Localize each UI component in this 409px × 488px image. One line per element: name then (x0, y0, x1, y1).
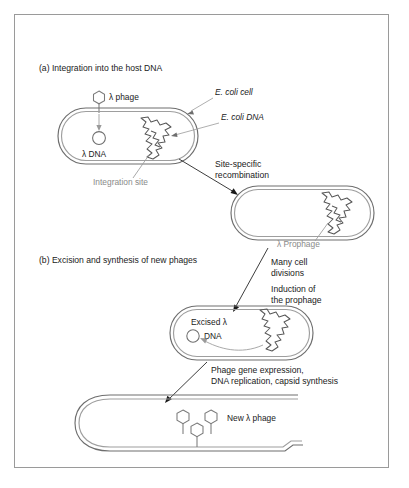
synthesis-arrow (165, 362, 207, 403)
new-phage-label: New λ phage (227, 413, 276, 423)
new-phage-3 (191, 423, 203, 447)
prophage-label: λ Prophage (277, 239, 320, 249)
host-chromosome-3 (260, 309, 290, 351)
recombination-label-line2: recombination (215, 170, 269, 180)
new-phage-1 (177, 410, 189, 434)
excised-dna-circle (187, 330, 199, 342)
integration-site-label: Integration site (93, 177, 148, 187)
divisions-label-line1: Many cell (271, 257, 307, 267)
ecoli-cell-label: E. coli cell (215, 87, 254, 97)
integration-site-leader (133, 155, 149, 178)
host-chromosome-1 (141, 117, 171, 159)
prophage-leader (315, 223, 328, 241)
panel-a-title: (a) Integration into the host DNA (39, 63, 163, 73)
ecoli-cell-leader (187, 98, 213, 115)
ecoli-cell-2 (231, 186, 374, 240)
synthesis-label-line1: Phage gene expression, (211, 365, 304, 375)
synthesis-label-line2: DNA replication, capsid synthesis (211, 376, 338, 386)
induction-arrow (233, 248, 268, 312)
excised-label-line1: Excised λ (191, 317, 228, 327)
lambda-dna-label: λ DNA (82, 149, 107, 159)
figure-frame: (a) Integration into the host DNA λ phag… (14, 14, 389, 468)
ecoli-dna-label: E. coli DNA (221, 112, 264, 122)
lysed-cell (75, 395, 303, 451)
induction-label-line2: the prophage (271, 295, 322, 305)
panel-b-title: (b) Excision and synthesis of new phages (39, 255, 197, 265)
injection-arrow (96, 114, 101, 131)
induction-label-line1: Induction of (271, 284, 316, 294)
divisions-label-line2: divisions (271, 268, 304, 278)
lambda-dna-circle (93, 132, 106, 145)
recombination-label-line1: Site-specific (215, 159, 262, 169)
diagram-canvas: (a) Integration into the host DNA λ phag… (15, 15, 390, 469)
new-phage-2 (205, 410, 217, 434)
host-chromosome-2 (322, 192, 352, 234)
lambda-phage-label: λ phage (109, 92, 139, 102)
lambda-phage-icon (94, 91, 105, 113)
